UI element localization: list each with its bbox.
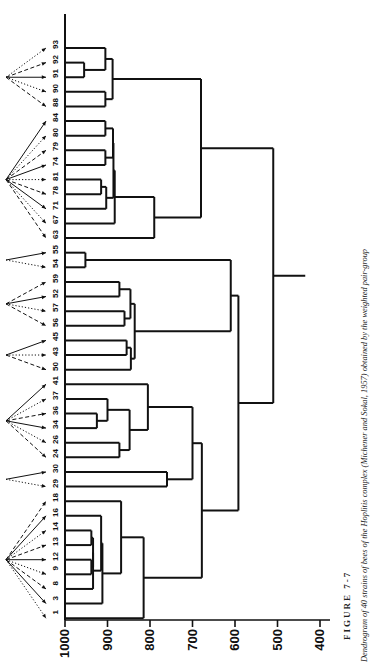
leaf-label-26: 26 — [52, 435, 60, 444]
dendrogram-figure: 9392919088848079748178716763555459525756… — [0, 0, 391, 668]
leaf-pointer-arrow — [6, 180, 46, 238]
axis-tick-label: 1000 — [58, 629, 71, 658]
leaf-label-59: 59 — [52, 274, 60, 283]
leaf-label-29: 29 — [52, 479, 60, 488]
arrow-head-icon — [42, 219, 46, 223]
leaf-label-9: 9 — [52, 566, 60, 570]
arrow-head-icon — [42, 484, 46, 488]
arrow-head-icon — [42, 585, 46, 589]
axis-tick-label: 600 — [228, 629, 241, 651]
arrow-head-icon — [42, 530, 46, 534]
arrow-head-icon — [41, 62, 46, 66]
arrow-head-icon — [42, 178, 46, 182]
leaf-label-74: 74 — [52, 157, 60, 166]
arrow-head-icon — [42, 412, 46, 416]
leaf-label-56: 56 — [52, 318, 60, 327]
leaf-label-67: 67 — [52, 215, 60, 224]
arrow-head-icon — [41, 439, 46, 443]
leaf-pointer-arrow — [6, 121, 46, 179]
arrow-head-icon — [42, 102, 46, 106]
leaf-label-79: 79 — [52, 142, 60, 151]
arrow-head-icon — [42, 353, 46, 357]
leaf-label-37: 37 — [52, 391, 60, 400]
leaf-pointer-arrow — [6, 136, 46, 180]
leaf-label-18: 18 — [52, 493, 60, 502]
leaf-label-92: 92 — [52, 55, 60, 64]
leaf-label-14: 14 — [52, 522, 60, 531]
leaf-label-63: 63 — [52, 230, 60, 239]
leaf-label-13: 13 — [52, 537, 60, 546]
leaf-label-91: 91 — [52, 69, 60, 78]
leaf-pointer-arrow — [6, 180, 46, 195]
leaf-pointer-arrow — [6, 501, 46, 559]
leaf-pointer-arrow — [6, 180, 46, 209]
leaf-label-52: 52 — [52, 289, 60, 298]
arrow-head-icon — [42, 252, 46, 256]
dendrogram-tree — [65, 48, 305, 618]
leaf-pointer-arrow — [6, 479, 46, 486]
axis-tick-label: 700 — [186, 629, 199, 651]
leaf-label-34: 34 — [52, 420, 60, 429]
leaf-label-1: 1 — [52, 610, 60, 614]
leaf-pointer-arrow — [6, 63, 46, 78]
leaf-label-36: 36 — [52, 406, 60, 415]
axis-tick-label: 800 — [143, 629, 156, 651]
leaf-label-84: 84 — [52, 113, 60, 122]
leaf-pointer-arrow — [6, 560, 46, 618]
arrow-head-icon — [41, 340, 46, 344]
axis-tick-label: 900 — [101, 629, 114, 651]
arrow-head-icon — [42, 234, 46, 239]
leaf-pointer-arrow — [6, 150, 46, 179]
arrow-head-icon — [41, 399, 46, 403]
leaf-pointer-arrow — [6, 77, 46, 92]
arrow-head-icon — [41, 545, 46, 549]
figure-number-label: FIGURE 7-7 — [342, 571, 352, 640]
leaf-label-41: 41 — [52, 376, 60, 385]
arrow-head-icon — [42, 426, 46, 430]
leaf-label-71: 71 — [52, 201, 60, 210]
arrow-head-icon — [42, 48, 46, 52]
arrow-head-icon — [42, 265, 46, 269]
leaf-label-12: 12 — [52, 552, 60, 561]
leaf-label-24: 24 — [52, 449, 60, 458]
leaf-label-54: 54 — [52, 259, 60, 268]
leaf-pointer-arrow — [6, 48, 46, 77]
leaf-label-81: 81 — [52, 172, 60, 181]
arrow-head-icon — [41, 366, 46, 370]
axis-tick-label: 400 — [313, 629, 326, 651]
arrow-head-icon — [41, 571, 46, 575]
leaf-label-30: 30 — [52, 464, 60, 473]
leaf-label-43: 43 — [52, 347, 60, 356]
leaf-pointer-arrow — [6, 516, 46, 560]
leaf-label-8: 8 — [52, 581, 60, 585]
arrow-head-icon — [42, 309, 46, 313]
arrow-head-icon — [41, 165, 46, 169]
arrow-head-icon — [42, 121, 46, 126]
leaf-pointer-arrow — [6, 560, 46, 604]
leaf-pointer-arrow — [6, 472, 46, 479]
arrow-head-icon — [42, 501, 46, 506]
leaf-pointer-arrow — [6, 530, 46, 559]
arrow-head-icon — [42, 558, 46, 562]
leaf-label-16: 16 — [52, 508, 60, 517]
leaf-label-3: 3 — [52, 596, 60, 600]
arrow-head-icon — [41, 89, 46, 93]
arrow-head-icon — [42, 136, 46, 140]
arrow-head-icon — [42, 295, 46, 299]
leaf-label-90: 90 — [52, 84, 60, 93]
leaf-pointer-arrow — [6, 340, 46, 355]
leaf-pointer-arrow — [6, 165, 46, 180]
arrow-head-icon — [42, 614, 46, 619]
leaf-pointer-arrow — [6, 560, 46, 589]
axis-tick-label: 500 — [271, 629, 284, 651]
leaf-label-55: 55 — [52, 245, 60, 254]
figure-caption-text: Dendrogram of 40 strains of bees of the … — [360, 249, 369, 662]
leaf-pointer-arrow — [6, 180, 46, 224]
figure-caption-block: FIGURE 7-7 Dendrogram of 40 strains of b… — [330, 0, 391, 668]
leaf-label-57: 57 — [52, 303, 60, 312]
leaf-label-78: 78 — [52, 186, 60, 195]
leaf-label-93: 93 — [52, 40, 60, 49]
leaf-label-45: 45 — [52, 332, 60, 341]
leaf-pointer-arrow — [6, 355, 46, 370]
arrow-head-icon — [42, 471, 46, 475]
